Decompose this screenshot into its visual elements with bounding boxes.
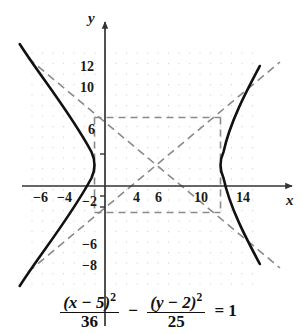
x-tick-label--6: −6 (33, 190, 48, 206)
y-tick-label--2: −2 (82, 194, 97, 210)
x-axis-label: x (286, 192, 294, 209)
y-tick-label-12: 12 (80, 59, 94, 75)
left-fraction-denominator: 36 (60, 313, 119, 331)
x-tick-label-6: 6 (155, 190, 162, 206)
graph-svg (0, 0, 302, 334)
right-numerator-exponent: 2 (196, 291, 202, 304)
x-tick-label--4: −4 (57, 190, 72, 206)
equation-caption: (x − 5)2 36 − (y − 2)2 25 = 1 (0, 292, 302, 330)
right-fraction-denominator: 25 (147, 313, 205, 331)
x-tick-label-4: 4 (133, 190, 140, 206)
left-fraction: (x − 5)2 36 (60, 292, 119, 330)
right-fraction: (y − 2)2 25 (147, 292, 205, 330)
y-tick-label-10: 10 (80, 80, 94, 96)
left-numerator-exponent: 2 (110, 291, 116, 304)
hyperbola-figure: y x −6 −4 4 6 10 14 12 10 6 −2 −6 −8 (x … (0, 0, 302, 334)
equation-operator: − (123, 301, 143, 321)
y-axis-label: y (88, 10, 95, 27)
left-fraction-numerator: (x − 5)2 (60, 292, 119, 313)
y-tick-label-6: 6 (88, 122, 95, 138)
plot-grid (22, 44, 258, 288)
y-tick-label--8: −8 (82, 258, 97, 274)
y-tick-label--6: −6 (82, 237, 97, 253)
right-fraction-numerator: (y − 2)2 (147, 292, 205, 313)
equation-equals: = 1 (209, 301, 241, 321)
x-tick-label-10: 10 (194, 190, 208, 206)
right-numerator-text: (y − 2) (150, 293, 196, 312)
x-tick-label-14: 14 (236, 190, 250, 206)
left-numerator-text: (x − 5) (63, 293, 110, 312)
